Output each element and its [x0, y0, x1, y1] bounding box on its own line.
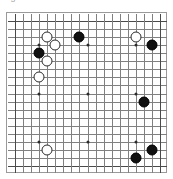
grid-line-vertical [15, 14, 16, 173]
black-stone[interactable] [138, 96, 149, 107]
star-point [86, 44, 89, 47]
white-stone[interactable] [130, 32, 141, 43]
star-point [134, 44, 137, 47]
star-point [38, 92, 41, 95]
black-stone[interactable] [74, 32, 85, 43]
star-point [86, 92, 89, 95]
white-stone[interactable] [50, 40, 61, 51]
grid-line-vertical [104, 14, 105, 173]
grid-line-vertical [120, 14, 121, 173]
grid-line-vertical [71, 14, 72, 173]
star-point [38, 140, 41, 143]
grid-line-vertical [160, 14, 161, 173]
go-board[interactable] [6, 12, 167, 173]
grid-line-vertical [96, 14, 97, 173]
grid-line-vertical [23, 14, 24, 173]
go-board-grid [7, 13, 168, 174]
figure-caption: Figure [2, 0, 31, 2]
black-stone[interactable] [146, 40, 157, 51]
go-diagram-container: Figure [0, 0, 173, 179]
star-point [134, 92, 137, 95]
black-stone[interactable] [146, 144, 157, 155]
star-point [38, 44, 41, 47]
grid-line-vertical [128, 14, 129, 173]
grid-line-vertical [31, 14, 32, 173]
white-stone[interactable] [34, 72, 45, 83]
white-stone[interactable] [42, 144, 53, 155]
grid-line-vertical [63, 14, 64, 173]
star-point [86, 140, 89, 143]
black-stone[interactable] [130, 152, 141, 163]
star-point [134, 140, 137, 143]
grid-line-vertical [55, 14, 56, 173]
grid-line-vertical [112, 14, 113, 173]
white-stone[interactable] [42, 56, 53, 67]
grid-line-vertical [144, 14, 145, 173]
